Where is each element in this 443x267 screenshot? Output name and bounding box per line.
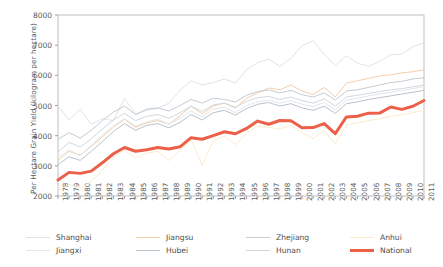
legend-item-anhui[interactable]: Anhui [350,231,402,243]
legend-swatch-icon [26,250,50,251]
legend-label: Shanghai [56,233,92,242]
chart-figure: Per Hectare Grain Yield (kilogram per he… [0,0,443,267]
legend-swatch-icon [136,250,160,251]
legend-item-zhejiang[interactable]: Zhejiang [246,231,309,243]
legend-swatch-icon [136,237,160,238]
legend-item-hunan[interactable]: Hunan [246,244,301,256]
legend-swatch-icon [246,250,270,251]
legend-swatch-icon [350,237,374,238]
legend-item-jiangxi[interactable]: Jiangxi [26,244,81,256]
series-line-anhui [58,110,424,190]
legend-label: Anhui [380,233,402,242]
legend-label: Zhejiang [276,233,309,242]
legend-item-jiangsu[interactable]: Jiangsu [136,231,193,243]
legend-label: Jiangxi [56,246,81,255]
legend-label: Hunan [276,246,301,255]
series-line-jiangxi [58,87,424,158]
legend-item-national[interactable]: National [350,244,412,256]
legend-label: Hubei [166,246,188,255]
series-line-jiangsu [58,70,424,160]
plot-area [0,0,443,267]
legend-swatch-icon [26,237,50,238]
legend-item-shanghai[interactable]: Shanghai [26,231,92,243]
chart-legend: ShanghaiJiangsuZhejiangAnhuiJiangxiHubei… [26,231,436,261]
legend-swatch-icon [246,237,270,238]
legend-label: Jiangsu [166,233,193,242]
legend-item-hubei[interactable]: Hubei [136,244,188,256]
legend-label: National [380,246,412,255]
series-line-hunan [58,85,424,152]
legend-swatch-icon [350,249,374,252]
